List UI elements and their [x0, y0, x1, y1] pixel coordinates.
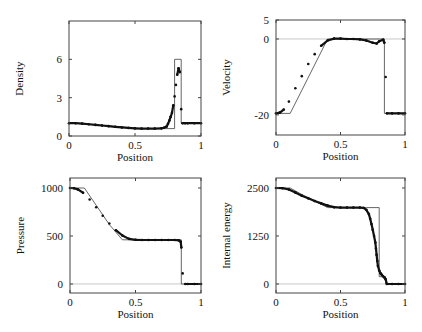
x-tick-label: 0 [67, 296, 73, 308]
exact-solution-line [69, 59, 201, 128]
y-tick-label: 0 [264, 278, 270, 290]
panel-velocity: 00.51-2005PositionVelocity [220, 14, 408, 162]
y-axis-label: Internal energy [220, 202, 232, 269]
x-tick-label: 1 [198, 139, 204, 151]
y-tick-label: 2500 [247, 182, 270, 194]
numerical-solution-dots [275, 37, 407, 114]
numerical-solution-dots [68, 67, 203, 130]
plot-frame [276, 178, 405, 293]
x-tick-label: 0 [66, 139, 72, 151]
x-tick-label: 0.5 [128, 139, 142, 151]
y-tick-label: 0 [58, 278, 64, 290]
exact-solution-line [276, 188, 405, 284]
y-tick-label: -20 [254, 109, 269, 121]
y-tick-label: 1250 [247, 230, 270, 242]
y-tick-label: 6 [57, 53, 63, 65]
panel-internal-energy: 00.51012502500PositionInternal energy [220, 178, 408, 320]
y-axis-label: Velocity [220, 59, 232, 96]
x-axis-label: Position [322, 308, 359, 320]
y-tick-label: 5 [264, 14, 270, 26]
y-tick-label: 3 [57, 92, 63, 104]
numerical-solution-dots [69, 187, 203, 286]
panel-pressure: 00.5105001000PositionPressure [14, 178, 204, 320]
exact-solution-line [70, 188, 201, 284]
y-tick-label: 0 [264, 33, 270, 45]
y-axis-label: Pressure [14, 217, 26, 254]
y-axis-label: Density [13, 61, 25, 96]
y-tick-label: 0 [57, 130, 63, 142]
x-tick-label: 0.5 [129, 296, 143, 308]
x-tick-label: 0 [273, 296, 279, 308]
x-tick-label: 0.5 [334, 296, 348, 308]
x-axis-label: Position [322, 150, 359, 162]
x-tick-label: 0 [273, 138, 279, 150]
x-axis-label: Position [117, 308, 154, 320]
panel-density: 00.51036PositionDensity [13, 21, 204, 163]
x-axis-label: Position [117, 151, 154, 163]
x-tick-label: 0.5 [334, 138, 348, 150]
chart-figure: 00.51036PositionDensity 00.51-2005Positi… [0, 0, 422, 332]
x-tick-label: 1 [402, 138, 408, 150]
numerical-solution-dots [275, 187, 407, 286]
x-tick-label: 1 [198, 296, 204, 308]
y-tick-label: 1000 [41, 182, 64, 194]
x-tick-label: 1 [402, 296, 408, 308]
y-tick-label: 500 [47, 230, 64, 242]
